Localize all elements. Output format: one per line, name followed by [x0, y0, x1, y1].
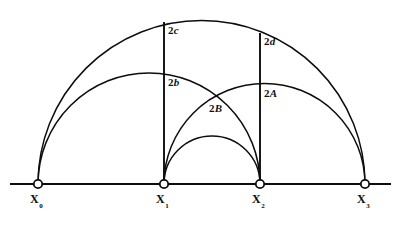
arc-label-2c: 2c [168, 24, 179, 36]
arc-label-2d-letter: d [270, 35, 276, 47]
geometry-figure: 2c 2d 2b 2A 2B X0 X1 X2 X3 [0, 0, 399, 227]
arc-label-2d: 2d [264, 35, 275, 47]
node-marker-x1 [160, 180, 168, 188]
arc-x1-x2 [164, 136, 260, 184]
arc-label-2A: 2A [264, 87, 277, 99]
axis-label-x0-main: X [30, 192, 39, 206]
axis-label-x0-sub: 0 [39, 202, 43, 210]
axis-label-x3: X3 [357, 192, 369, 208]
axis-label-x2-main: X [252, 192, 261, 206]
axis-label-x2: X2 [252, 192, 264, 208]
node-marker-x0 [34, 180, 42, 188]
arc-label-2B-letter: B [215, 102, 223, 114]
axis-label-x1: X1 [156, 192, 168, 208]
axis-label-x1-main: X [156, 192, 165, 206]
arc-label-2b-letter: b [174, 76, 180, 88]
figure-canvas [0, 0, 399, 227]
node-marker-x2 [256, 180, 264, 188]
axis-label-x3-main: X [357, 192, 366, 206]
arc-label-2b: 2b [168, 76, 179, 88]
axis-label-x2-sub: 2 [261, 202, 265, 210]
arc-x0-x2 [38, 73, 260, 184]
arc-label-2B: 2B [209, 102, 222, 114]
arc-label-2A-letter: A [270, 87, 278, 99]
node-marker-x3 [361, 180, 369, 188]
arc-x0-x3 [38, 21, 365, 185]
axis-label-x3-sub: 3 [366, 202, 370, 210]
axis-label-x1-sub: 1 [165, 202, 169, 210]
axis-label-x0: X0 [30, 192, 42, 208]
arc-label-2c-letter: c [174, 24, 179, 36]
